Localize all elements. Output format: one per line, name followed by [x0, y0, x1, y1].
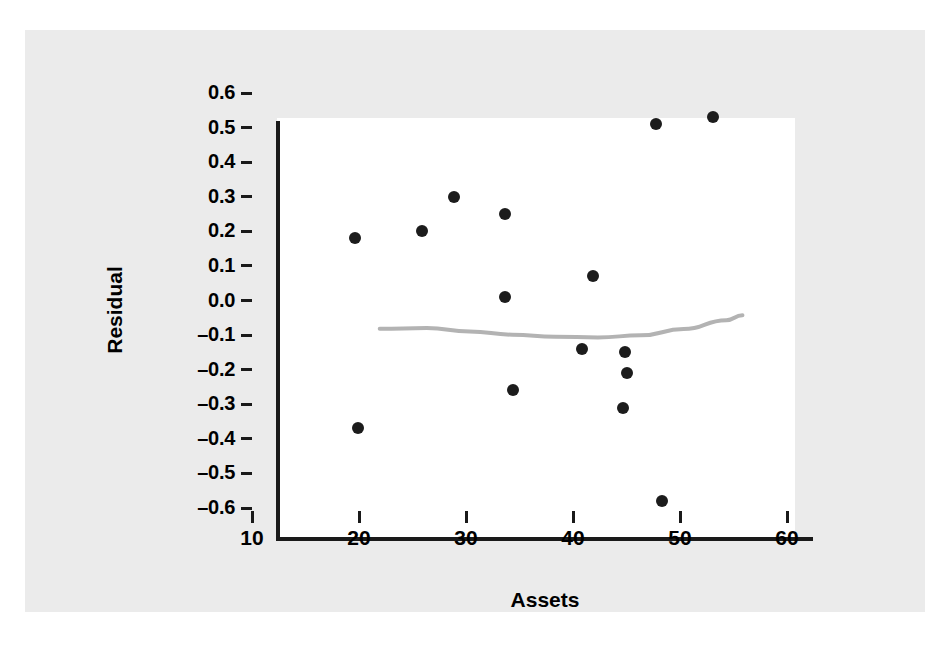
y-axis-tick-label: 0.6	[179, 81, 235, 104]
x-axis-tick	[572, 511, 575, 523]
scatter-point	[621, 367, 633, 379]
y-axis-tick	[241, 368, 252, 371]
y-axis-tick-label: –0.1	[179, 323, 235, 346]
scatter-point	[499, 291, 511, 303]
figure-page: 0.60.50.40.30.20.10.0–0.1–0.2–0.3–0.4–0.…	[0, 0, 949, 647]
x-axis-tick-label: 40	[543, 526, 603, 550]
x-axis-tick	[358, 511, 361, 523]
x-axis-tick-label: 60	[757, 526, 817, 550]
y-axis-tick-label: –0.4	[179, 427, 235, 450]
y-axis-tick	[241, 403, 252, 406]
y-axis-tick	[241, 195, 252, 198]
y-axis-tick	[241, 264, 252, 267]
scatter-point	[499, 208, 511, 220]
scatter-point	[576, 343, 588, 355]
y-axis-tick-label: 0.4	[179, 150, 235, 173]
y-axis-tick	[241, 507, 252, 510]
scatter-point	[617, 402, 629, 414]
y-axis-tick-label: –0.6	[179, 496, 235, 519]
x-axis-tick	[251, 511, 254, 523]
plot-area	[277, 118, 795, 539]
y-axis-tick-label: 0.5	[179, 116, 235, 139]
y-axis-tick-label: 0.1	[179, 254, 235, 277]
x-axis-tick-label: 20	[329, 526, 389, 550]
x-axis-tick-label: 10	[222, 526, 282, 550]
x-axis-tick	[679, 511, 682, 523]
x-axis-tick-label: 30	[436, 526, 496, 550]
x-axis-tick	[786, 511, 789, 523]
scatter-point	[349, 232, 361, 244]
y-axis-tick	[241, 472, 252, 475]
y-axis-tick	[241, 126, 252, 129]
y-axis-tick-label: 0.3	[179, 185, 235, 208]
x-axis-tick-label: 50	[650, 526, 710, 550]
figure-background-panel: 0.60.50.40.30.20.10.0–0.1–0.2–0.3–0.4–0.…	[25, 30, 925, 612]
y-axis-tick	[241, 230, 252, 233]
y-axis-tick-label: 0.2	[179, 219, 235, 242]
y-axis-tick	[241, 437, 252, 440]
y-axis-tick	[241, 334, 252, 337]
x-axis-tick	[465, 511, 468, 523]
y-axis-tick-label: –0.5	[179, 461, 235, 484]
scatter-point	[656, 495, 668, 507]
y-axis-tick-label: –0.3	[179, 392, 235, 415]
y-axis-tick-label: 0.0	[179, 289, 235, 312]
y-axis-tick	[241, 92, 252, 95]
y-axis-label: Residual	[103, 210, 127, 410]
x-axis-label: Assets	[425, 588, 665, 612]
scatter-point	[448, 191, 460, 203]
y-axis-line	[276, 121, 280, 541]
y-axis-tick-label: –0.2	[179, 358, 235, 381]
y-axis-tick	[241, 161, 252, 164]
y-axis-tick	[241, 299, 252, 302]
